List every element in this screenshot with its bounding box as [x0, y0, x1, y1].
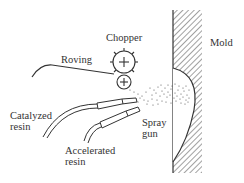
spray-up-diagram: Chopper Roving Mold Catalyzed resin Acce… — [0, 0, 244, 183]
mold-label: Mold — [210, 37, 233, 48]
chopper-label: Chopper — [106, 32, 142, 43]
spray-gun-label-line1: Spray — [142, 117, 167, 128]
catalyzed-nozzle — [97, 98, 137, 109]
roving-strand — [32, 65, 114, 77]
accelerated-resin-label-line2: resin — [65, 156, 85, 167]
catalyzed-resin-label-line1: Catalyzed — [10, 110, 52, 121]
accelerated-resin-label-line1: Accelerated — [65, 145, 115, 156]
spray-gun-label-line2: gun — [142, 128, 158, 139]
chopper-roller — [117, 75, 131, 89]
accelerated-nozzle — [100, 107, 140, 128]
roving-label: Roving — [61, 54, 92, 65]
diagram-drawing — [0, 0, 244, 183]
catalyzed-resin-label-line2: resin — [10, 121, 30, 132]
chopper-wheel — [110, 48, 138, 73]
accelerated-resin-hose — [84, 123, 101, 143]
